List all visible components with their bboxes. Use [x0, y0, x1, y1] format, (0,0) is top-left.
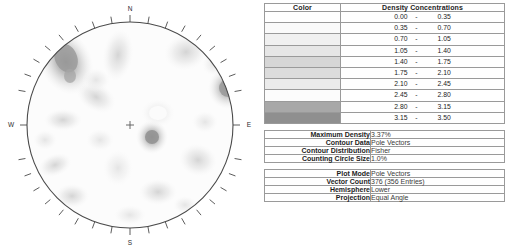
legend-range-low: 1.05: [374, 46, 408, 56]
info-row-value: 1.0%: [371, 154, 505, 162]
density-blob: [44, 109, 82, 131]
info-row-label: Counting Circle Size: [265, 154, 371, 162]
legend-color-swatch-cell: [265, 79, 341, 90]
legend-color-swatch-cell: [265, 90, 341, 101]
legend-row: 0.00-0.35: [265, 12, 505, 23]
legend-color-swatch: [265, 113, 340, 123]
legend-range-low: 2.10: [374, 79, 408, 89]
contour-info-row: Contour DataPole Vectors: [265, 138, 505, 146]
density-legend-table: Color Density Concentrations 0.00-0.350.…: [264, 3, 505, 124]
info-row-value: Fisher: [371, 146, 505, 154]
legend-range-dash: -: [408, 79, 426, 89]
legend-header-color: Color: [265, 4, 341, 12]
legend-range-low: 1.40: [374, 57, 408, 67]
legend-color-swatch-cell: [265, 67, 341, 78]
info-row-label: Hemisphere: [265, 185, 371, 193]
stereonet-plot: N S E W: [0, 0, 260, 251]
plot-info-row: Vector Count376 (356 Entries): [265, 177, 505, 185]
density-blob: [103, 150, 133, 186]
legend-color-swatch-cell: [265, 34, 341, 45]
legend-range-high: 1.75: [426, 57, 472, 67]
legend-range-cell: 1.40-1.75: [341, 56, 505, 67]
legend-row: 2.10-2.45: [265, 79, 505, 90]
legend-range-dash: -: [408, 102, 426, 112]
contour-info-row: Contour DistributionFisher: [265, 146, 505, 154]
legend-range-high: 2.45: [426, 79, 472, 89]
legend-range-dash: -: [408, 23, 426, 33]
info-row-label: Vector Count: [265, 177, 371, 185]
legend-color-swatch: [265, 23, 340, 33]
legend-color-swatch-cell: [265, 56, 341, 67]
plot-info-row: ProjectionEqual Angle: [265, 193, 505, 201]
legend-row: 2.80-3.15: [265, 101, 505, 112]
legend-range-dash: -: [408, 46, 426, 56]
legend-color-swatch: [265, 12, 340, 22]
legend-range-dash: -: [408, 12, 426, 22]
legend-range-high: 3.15: [426, 102, 472, 112]
legend-color-swatch-cell: [265, 23, 341, 34]
compass-label-north: N: [128, 5, 133, 12]
legend-range-cell: 0.00-0.35: [341, 12, 505, 23]
stereonet-report: N S E W Color Density Concentrations 0.0…: [0, 0, 508, 251]
legend-range-cell: 0.35-0.70: [341, 23, 505, 34]
legend-range-low: 0.35: [374, 23, 408, 33]
plot-info-body: Plot ModePole VectorsVector Count376 (35…: [265, 169, 505, 201]
info-row-value: Equal Angle: [371, 193, 505, 201]
info-row-value: Pole Vectors: [371, 169, 505, 177]
legend-color-swatch: [265, 102, 340, 112]
report-tables: Color Density Concentrations 0.00-0.350.…: [260, 0, 508, 251]
legend-row: 2.45-2.80: [265, 90, 505, 101]
legend-range-low: 2.80: [374, 102, 408, 112]
legend-range-high: 0.70: [426, 23, 472, 33]
legend-range-low: 1.75: [374, 68, 408, 78]
legend-color-swatch-cell: [265, 101, 341, 112]
legend-color-swatch: [265, 57, 340, 67]
legend-range-high: 2.10: [426, 68, 472, 78]
density-blob: [82, 68, 110, 92]
info-row-label: Contour Data: [265, 138, 371, 146]
legend-range-dash: -: [408, 113, 426, 123]
info-row-label: Maximum Density: [265, 130, 371, 138]
legend-row: 1.05-1.40: [265, 45, 505, 56]
density-blob: [86, 129, 114, 151]
contour-info-body: Maximum Density3.37%Contour DataPole Vec…: [265, 130, 505, 162]
density-blob: [139, 179, 177, 205]
plot-info-row: Plot ModePole Vectors: [265, 169, 505, 177]
legend-row: 3.15-3.50: [265, 112, 505, 123]
legend-row: 1.75-2.10: [265, 67, 505, 78]
legend-color-swatch: [265, 90, 340, 100]
legend-row: 1.40-1.75: [265, 56, 505, 67]
density-blob-hole: [149, 106, 167, 120]
legend-color-swatch: [265, 68, 340, 78]
legend-header-density: Density Concentrations: [341, 4, 505, 12]
legend-range-cell: 1.05-1.40: [341, 45, 505, 56]
legend-range-high: 0.35: [426, 12, 472, 22]
density-blob-core: [145, 130, 159, 144]
legend-range-low: 0.70: [374, 34, 408, 44]
legend-range-low: 0.00: [374, 12, 408, 22]
density-blob: [55, 184, 89, 208]
compass-label-east: E: [247, 121, 252, 128]
density-blob: [33, 130, 57, 150]
legend-range-low: 3.15: [374, 113, 408, 123]
density-blob: [192, 111, 218, 133]
legend-color-swatch: [265, 46, 340, 56]
info-row-value: 3.37%: [371, 130, 505, 138]
legend-color-swatch-cell: [265, 112, 341, 123]
legend-color-swatch-cell: [265, 45, 341, 56]
density-blob-core: [64, 69, 76, 83]
contour-info-table: Maximum Density3.37%Contour DataPole Vec…: [264, 130, 505, 163]
legend-range-cell: 3.15-3.50: [341, 112, 505, 123]
legend-range-cell: 2.80-3.15: [341, 101, 505, 112]
legend-row: 0.70-1.05: [265, 34, 505, 45]
contour-info-row: Maximum Density3.37%: [265, 130, 505, 138]
info-row-value: Lower: [371, 185, 505, 193]
legend-range-dash: -: [408, 57, 426, 67]
legend-range-cell: 0.70-1.05: [341, 34, 505, 45]
legend-range-high: 2.80: [426, 90, 472, 100]
info-row-label: Contour Distribution: [265, 146, 371, 154]
legend-row: 0.35-0.70: [265, 23, 505, 34]
plot-info-table: Plot ModePole VectorsVector Count376 (35…: [264, 169, 505, 202]
stereonet-canvas: N S E W: [0, 0, 260, 251]
legend-color-swatch: [265, 79, 340, 89]
